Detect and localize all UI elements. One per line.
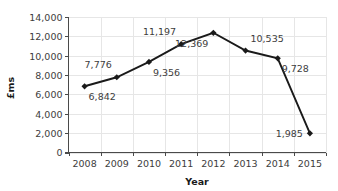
x-tick-label: 2012 (201, 158, 225, 169)
y-tick-label: 6,000 (35, 89, 62, 100)
y-tick-label: 14,000 (29, 12, 62, 23)
x-tick-label: 2009 (105, 158, 129, 169)
data-value-label: 7,776 (85, 59, 112, 70)
x-tick-label: 2008 (73, 158, 97, 169)
x-tick-label: 2015 (298, 158, 322, 169)
data-value-label: 9,356 (153, 67, 180, 78)
x-axis-tick-labels: 20082009201020112012201320142015 (73, 158, 323, 169)
y-tick-label: 4,000 (35, 109, 62, 120)
y-tick-label: 2,000 (35, 128, 62, 139)
y-tick-label: 12,000 (29, 31, 62, 42)
y-tick-label: 10,000 (29, 51, 62, 62)
y-tick-label: 0 (56, 147, 62, 158)
x-tick-label: 2010 (137, 158, 161, 169)
data-value-label: 1,985 (276, 128, 303, 139)
data-value-label: 12,369 (175, 38, 208, 49)
chart-canvas: 02,0004,0006,0008,00010,00012,00014,000 … (0, 0, 338, 191)
y-axis-tick-labels: 02,0004,0006,0008,00010,00012,00014,000 (29, 12, 62, 159)
data-value-label: 10,535 (251, 33, 284, 44)
x-axis-title: Year (184, 176, 209, 187)
x-tick-label: 2011 (169, 158, 193, 169)
x-tick-label: 2014 (266, 158, 290, 169)
y-tick-label: 8,000 (35, 70, 62, 81)
data-value-label: 6,842 (89, 91, 116, 102)
y-axis-title: £ms (5, 77, 16, 100)
data-value-label: 9,728 (282, 63, 309, 74)
data-value-label: 11,197 (143, 26, 176, 37)
line-chart: 02,0004,0006,0008,00010,00012,00014,000 … (0, 0, 338, 191)
x-tick-label: 2013 (233, 158, 257, 169)
